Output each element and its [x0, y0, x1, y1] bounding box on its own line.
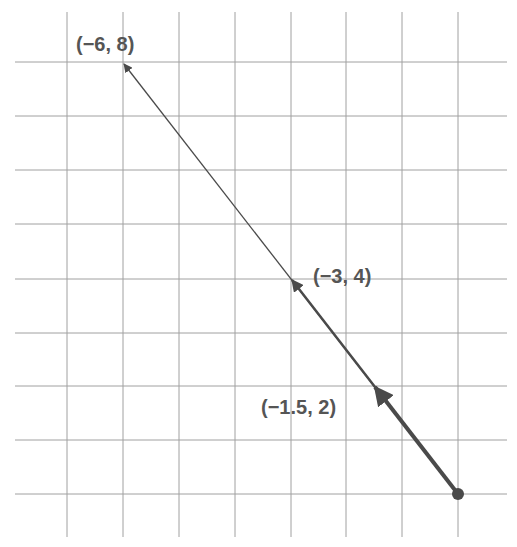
vector-diagram: (−6, 8) (−3, 4) (−1.5, 2)	[0, 0, 517, 547]
diagram-svg: (−6, 8) (−3, 4) (−1.5, 2)	[0, 0, 517, 547]
origin-point	[452, 488, 464, 500]
label-point-neg6-8: (−6, 8)	[76, 33, 134, 55]
label-point-neg3-4: (−3, 4)	[313, 265, 371, 287]
label-point-neg1.5-2: (−1.5, 2)	[261, 396, 336, 418]
grid	[15, 12, 507, 537]
